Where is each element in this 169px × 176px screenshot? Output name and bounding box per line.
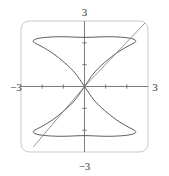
plot-canvas: 3 −3 −3 3 <box>0 0 169 176</box>
plot-figure: 3 −3 −3 3 <box>0 0 169 176</box>
axis-label-y-min: −3 <box>79 160 91 172</box>
axis-label-x-max: 3 <box>152 81 158 93</box>
axis-label-x-min: −3 <box>10 81 22 93</box>
axis-label-y-max: 3 <box>82 6 88 18</box>
